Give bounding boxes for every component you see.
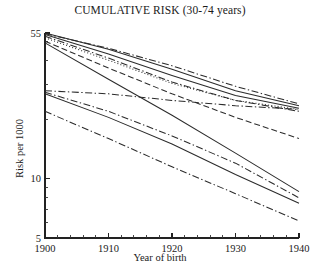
x-tick-label: 1910 [98, 243, 119, 254]
x-tick-label: 1940 [289, 243, 310, 254]
series-line [45, 38, 299, 110]
series-line [45, 41, 299, 138]
x-tick-label: 1920 [162, 243, 183, 254]
series-line [45, 94, 299, 204]
x-tick-label: 1900 [35, 243, 56, 254]
x-tick-label: 1930 [225, 243, 246, 254]
chart-figure: CUMULATIVE RISK (30-74 years) Risk per 1… [0, 0, 320, 271]
plot-area: 1900191019201930194051055 [0, 0, 320, 271]
y-tick-label: 55 [31, 28, 42, 39]
y-tick-label: 5 [36, 233, 41, 244]
series-line [45, 111, 299, 221]
series-lines [45, 33, 299, 221]
series-line [45, 43, 299, 192]
series-line [45, 33, 299, 106]
y-tick-label: 10 [31, 173, 42, 184]
tick-labels: 1900191019201930194051055 [31, 28, 310, 254]
